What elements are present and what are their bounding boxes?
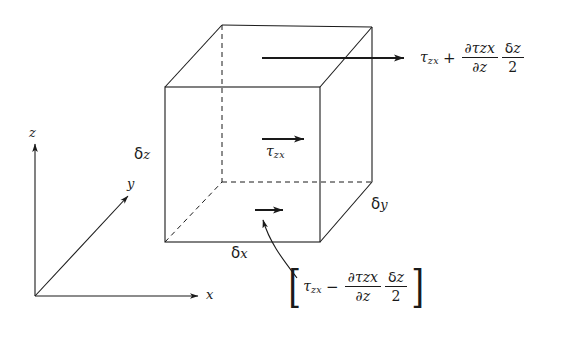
stress-expression-top: τzx + ∂τzx ∂z δz 2 [420, 40, 526, 75]
delta-var-y: y [380, 197, 387, 212]
cube-front-face [165, 87, 320, 242]
stress-bottom-half-thickness-fraction: δz 2 [385, 269, 407, 304]
delta-symbol-z: δ [134, 145, 143, 163]
delta-symbol-y: δ [371, 195, 380, 213]
delta-symbol-bottom: δ [388, 269, 397, 285]
delta-var-x: x [240, 246, 247, 261]
stress-expression-bottom: [ τzx − ∂τzx ∂z δz 2 [286, 268, 426, 305]
half-thickness-numerator: δz [502, 40, 524, 56]
stress-bottom-operator: − [326, 278, 339, 296]
axis-label-x: x [206, 288, 213, 301]
derivative-numerator-subscript: zx [480, 40, 495, 56]
dimension-label-delta-y: δy [371, 197, 388, 212]
stress-element-figure: z y x δz δy δx τzx τzx + ∂τzx ∂z δz [0, 0, 574, 338]
close-bracket: ] [411, 268, 424, 305]
cube-edge-back-bottom-left [165, 182, 222, 242]
stress-top-subscript: zx [428, 55, 439, 66]
partial-symbol-denominator: ∂ [355, 288, 362, 304]
derivative-denominator-var: z [363, 288, 370, 304]
derivative-denominator: ∂z [352, 288, 373, 304]
stress-bottom-subscript: zx [311, 284, 322, 295]
stress-center-subscript: zx [274, 149, 285, 160]
fraction-bar [345, 286, 381, 287]
stress-bottom-symbol: τ [303, 278, 311, 294]
partial-symbol-denominator: ∂ [472, 59, 479, 75]
stress-top-derivative-fraction: ∂τzx ∂z [462, 40, 498, 75]
open-bracket: [ [288, 268, 301, 305]
fraction-bar [385, 286, 407, 287]
derivative-numerator-symbol: τ [472, 40, 480, 56]
stress-top-half-thickness-fraction: δz 2 [502, 40, 524, 75]
axis-y [35, 196, 128, 296]
coordinate-axes [35, 144, 198, 296]
stress-arrows [255, 58, 404, 210]
cube-edge-bottom-right-diagonal [320, 182, 372, 242]
stress-bottom-base: τzx [303, 278, 322, 295]
stress-bottom-derivative-fraction: ∂τzx ∂z [345, 269, 381, 304]
half-thickness-denominator: 2 [505, 59, 520, 75]
derivative-numerator: ∂τzx [345, 269, 381, 285]
delta-var-z: z [143, 147, 150, 162]
stress-center-symbol: τ [266, 143, 274, 159]
fraction-bar [462, 57, 498, 58]
cube-edge-top-back-horizontal [222, 25, 372, 27]
delta-symbol-x: δ [231, 244, 240, 262]
derivative-numerator-symbol: τ [355, 269, 363, 285]
derivative-denominator: ∂z [469, 59, 490, 75]
derivative-numerator-subscript: zx [363, 269, 378, 285]
stress-top-base: τzx [420, 49, 439, 66]
derivative-denominator-var: z [480, 59, 487, 75]
partial-symbol-numerator: ∂ [348, 269, 355, 285]
half-thickness-numerator: δz [385, 269, 407, 285]
delta-var-bottom: z [397, 269, 404, 285]
derivative-numerator: ∂τzx [462, 40, 498, 56]
axis-label-z: z [29, 126, 36, 139]
cube-edge-top-left-diagonal [165, 25, 222, 87]
delta-var-top: z [513, 40, 520, 56]
fraction-bar [502, 57, 524, 58]
partial-symbol-numerator: ∂ [465, 40, 472, 56]
stress-top-symbol: τ [420, 49, 428, 65]
dimension-label-delta-z: δz [134, 147, 150, 162]
stress-bottom-body: τzx − ∂τzx ∂z δz 2 [303, 269, 409, 304]
stress-label-center: τzx [266, 144, 285, 160]
half-thickness-denominator: 2 [388, 288, 403, 304]
dimension-label-delta-x: δx [231, 246, 248, 261]
axis-label-y: y [127, 177, 134, 190]
stress-top-operator: + [443, 49, 456, 67]
